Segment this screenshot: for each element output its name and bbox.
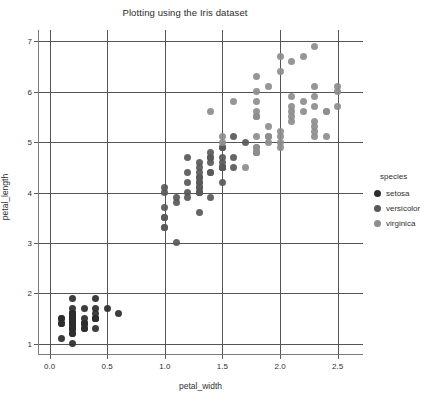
gridline-y (38, 243, 363, 244)
data-point-virginica (265, 83, 272, 90)
data-point-virginica (288, 58, 295, 65)
data-point-setosa (104, 305, 111, 312)
y-tick-label: 5 (28, 138, 38, 147)
x-tick-label: 1.5 (217, 362, 228, 371)
x-tick-label: 1.0 (159, 362, 170, 371)
y-tick-label: 3 (28, 238, 38, 247)
data-point-virginica (311, 43, 318, 50)
gridline-y (38, 293, 363, 294)
data-point-virginica (323, 108, 330, 115)
x-tick-mark (107, 355, 108, 359)
data-point-versicolor (196, 184, 203, 191)
data-point-versicolor (196, 159, 203, 166)
y-axis-label-wrapper: petal_length (8, 30, 9, 355)
y-tick-label: 2 (28, 289, 38, 298)
chart-title: Plotting using the Iris dataset (0, 7, 370, 18)
y-axis-label: petal_length (0, 174, 10, 220)
data-point-versicolor (207, 149, 214, 156)
data-point-virginica (300, 108, 307, 115)
gridline-y (38, 344, 363, 345)
data-point-virginica (265, 139, 272, 146)
legend-item-setosa[interactable]: setosa (374, 186, 433, 201)
data-point-setosa (69, 295, 76, 302)
legend-marker-icon (374, 190, 381, 197)
legend-item-versicolor[interactable]: versicolor (374, 201, 433, 216)
data-point-virginica (277, 144, 284, 151)
data-point-virginica (300, 98, 307, 105)
x-tick-mark (50, 355, 51, 359)
legend-label: versicolor (386, 204, 420, 213)
data-point-versicolor (196, 209, 203, 216)
data-point-virginica (242, 164, 249, 171)
x-tick-mark (280, 355, 281, 359)
chart-figure: Plotting using the Iris dataset petal_le… (0, 0, 433, 402)
y-tick-label: 7 (28, 37, 38, 46)
x-tick-mark (165, 355, 166, 359)
x-tick-mark (338, 355, 339, 359)
data-point-virginica (277, 128, 284, 135)
x-axis-spine (38, 354, 363, 355)
data-point-virginica (300, 53, 307, 60)
data-point-setosa (58, 320, 65, 327)
legend-marker-icon (374, 220, 381, 227)
data-point-setosa (81, 320, 88, 327)
data-point-versicolor (196, 174, 203, 181)
y-tick-label: 6 (28, 87, 38, 96)
legend-title: species (380, 172, 433, 181)
legend: species setosaversicolorvirginica (374, 172, 433, 231)
data-point-virginica (277, 53, 284, 60)
data-point-versicolor (219, 154, 226, 161)
legend-label: setosa (386, 189, 410, 198)
x-tick-label: 2.5 (332, 362, 343, 371)
y-tick-label: 4 (28, 188, 38, 197)
data-point-virginica (277, 68, 284, 75)
data-point-versicolor (219, 179, 226, 186)
gridline-y (38, 142, 363, 143)
y-axis-spine (38, 30, 39, 355)
data-point-setosa (58, 335, 65, 342)
data-point-versicolor (242, 139, 249, 146)
legend-marker-icon (374, 205, 381, 212)
x-axis-label: petal_width (38, 381, 363, 391)
legend-label: virginica (386, 219, 415, 228)
plot-area: 0.00.51.01.52.02.51234567 (38, 30, 363, 355)
y-tick-label: 1 (28, 339, 38, 348)
x-tick-label: 2.0 (274, 362, 285, 371)
x-tick-mark (222, 355, 223, 359)
data-point-versicolor (173, 199, 180, 206)
data-point-versicolor (184, 154, 191, 161)
legend-item-virginica[interactable]: virginica (374, 216, 433, 231)
x-tick-label: 0.5 (102, 362, 113, 371)
data-point-setosa (81, 305, 88, 312)
legend-items: setosaversicolorvirginica (374, 186, 433, 231)
data-point-versicolor (219, 164, 226, 171)
x-tick-label: 0.0 (44, 362, 55, 371)
gridline-y (38, 41, 363, 42)
